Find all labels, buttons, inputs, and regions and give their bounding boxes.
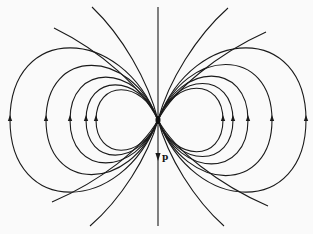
dipole-moment-label: p [162,152,168,162]
arrow-up-icon [221,115,225,121]
dipole-diagram: p [0,0,313,234]
open-field-line [52,120,158,202]
open-field-line [158,120,268,206]
arrow-up-icon [304,115,308,121]
dipole-center [156,116,161,124]
arrow-up-icon [270,115,274,121]
field-loop [70,77,158,163]
arrow-up-icon [246,115,250,121]
arrow-up-icon [94,115,98,121]
field-loop [158,88,223,151]
arrow-up-icon [8,115,12,121]
open-field-line [158,120,224,226]
arrow-up-icon [84,115,88,121]
dipole-moment-arrow-icon [155,153,160,161]
field-lines-canvas: p [0,0,313,234]
field-loop [96,90,158,150]
arrow-up-icon [68,115,72,121]
open-field-line [54,28,158,120]
field-loop [46,65,158,174]
open-field-line [90,120,158,226]
arrow-up-icon [231,115,235,121]
arrow-up-icon [44,115,48,121]
open-field-lines [52,7,268,226]
field-loop [158,64,272,175]
